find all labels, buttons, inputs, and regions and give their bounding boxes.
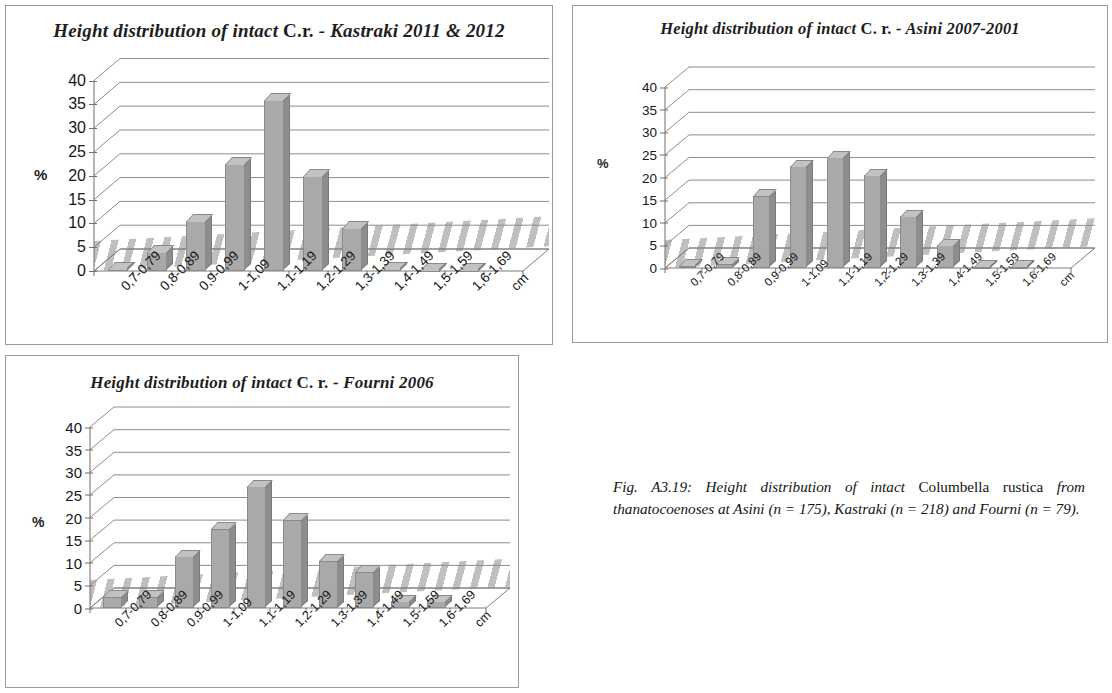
- bar-side-face: [953, 240, 960, 267]
- caption-lead: Fig. A3.19: Height distribution of intac…: [613, 478, 918, 495]
- x-axis-tick-label: 1,5-1,59: [983, 250, 1021, 288]
- x-axis-tick-label: 1,6-1,69: [1020, 250, 1058, 288]
- bar-side-face: [337, 555, 344, 607]
- y-axis-tick-label: 15: [54, 191, 86, 209]
- y-axis-tick-label: 0: [54, 262, 86, 280]
- gridline: [90, 407, 510, 427]
- y-axis-label: %: [34, 166, 47, 183]
- y-axis-tick-label: 10: [50, 554, 82, 571]
- gridline: [94, 106, 549, 128]
- gridline: [90, 452, 510, 472]
- y-tick-dash: [85, 563, 93, 564]
- y-tick-dash: [660, 245, 668, 246]
- y-axis-tick-label: 35: [625, 102, 657, 117]
- y-axis-tick-label: 25: [54, 143, 86, 161]
- plot-area-asini: 0510152025303540%0,7-0,790,8-0,890,9-0,9…: [573, 6, 1109, 344]
- y-tick-dash: [89, 81, 97, 82]
- chart-panel-asini: Height distribution of intact C. r. - As…: [572, 5, 1108, 343]
- bar-side-face: [205, 215, 212, 270]
- gridline: [665, 135, 1095, 155]
- bar: [679, 266, 696, 268]
- figure-page: Height distribution of intact C.r. - Kas…: [0, 0, 1112, 693]
- x-axis-unit-label: cm: [472, 608, 494, 630]
- y-tick-dash: [85, 427, 93, 428]
- bar-side-face: [361, 223, 368, 270]
- y-axis-tick-label: 10: [54, 214, 86, 232]
- y-tick-dash: [660, 268, 668, 269]
- bar: [1011, 267, 1028, 269]
- x-axis-unit-label: cm: [508, 270, 531, 293]
- bar: [827, 157, 844, 268]
- bar-side-face: [880, 170, 887, 267]
- y-axis-tick-label: 15: [625, 193, 657, 208]
- bar-side-face: [373, 567, 380, 607]
- y-axis-tick-label: 20: [50, 509, 82, 526]
- y-axis-tick-label: 25: [50, 486, 82, 503]
- y-axis-tick-label: 0: [50, 600, 82, 617]
- gridline: [94, 59, 549, 81]
- bar: [108, 269, 128, 271]
- bar: [103, 597, 122, 608]
- bar-side-face: [229, 524, 236, 607]
- y-tick-dash: [89, 200, 97, 201]
- y-tick-dash: [660, 200, 668, 201]
- x-axis-unit-label: cm: [1057, 269, 1076, 288]
- y-tick-dash: [89, 271, 97, 272]
- y-tick-dash: [89, 176, 97, 177]
- y-axis-tick-label: 20: [625, 170, 657, 185]
- y-axis-tick-label: 10: [625, 215, 657, 230]
- y-axis-label: %: [597, 156, 609, 171]
- y-axis-tick-label: 40: [625, 80, 657, 95]
- y-axis-tick-label: 15: [50, 532, 82, 549]
- y-axis-tick-label: 30: [625, 125, 657, 140]
- y-axis-tick-label: 35: [54, 95, 86, 113]
- gridline: [665, 112, 1095, 132]
- gridline: [665, 67, 1095, 87]
- bar-side-face: [244, 158, 251, 270]
- y-axis-tick-label: 40: [50, 419, 82, 436]
- y-axis-tick-label: 35: [50, 441, 82, 458]
- gridline: [90, 430, 510, 450]
- y-axis-tick-label: 20: [54, 167, 86, 185]
- y-axis-tick-label: 30: [54, 119, 86, 137]
- bar: [247, 486, 266, 608]
- y-tick-dash: [660, 132, 668, 133]
- y-tick-dash: [660, 178, 668, 179]
- gridline: [90, 475, 510, 495]
- y-tick-dash: [660, 87, 668, 88]
- gridline: [665, 90, 1095, 110]
- chart-panel-kastraki: Height distribution of intact C.r. - Kas…: [5, 5, 553, 345]
- plot-area-fourni: 0510152025303540%0,7-0,790,8-0,890,9-0,9…: [6, 356, 520, 689]
- x-axis-tick-label: 1,6-1,69: [436, 588, 478, 630]
- bar-side-face: [301, 515, 308, 607]
- bar-side-face: [193, 551, 200, 607]
- bar-side-face: [769, 191, 776, 267]
- y-tick-dash: [85, 450, 93, 451]
- gridline: [94, 82, 549, 104]
- y-tick-dash: [89, 247, 97, 248]
- chart-panel-fourni: Height distribution of intact C. r. - Fo…: [5, 355, 519, 688]
- bar-side-face: [322, 170, 329, 270]
- y-axis-tick-label: 5: [54, 238, 86, 256]
- bar: [264, 100, 284, 271]
- y-tick-dash: [85, 518, 93, 519]
- y-tick-dash: [85, 608, 93, 609]
- caption-species-name: Columbella rustica: [918, 478, 1043, 495]
- y-tick-dash: [660, 110, 668, 111]
- y-tick-dash: [660, 223, 668, 224]
- y-tick-dash: [85, 540, 93, 541]
- y-axis-tick-label: 30: [50, 464, 82, 481]
- y-axis-tick-label: 40: [54, 72, 86, 90]
- y-tick-dash: [89, 128, 97, 129]
- bar-side-face: [283, 94, 290, 270]
- y-axis-tick-label: 25: [625, 147, 657, 162]
- y-tick-dash: [89, 152, 97, 153]
- bar-side-face: [916, 211, 923, 267]
- bar: [974, 267, 991, 269]
- y-axis-tick-label: 5: [625, 238, 657, 253]
- y-axis-tick-label: 5: [50, 577, 82, 594]
- y-tick-dash: [660, 155, 668, 156]
- y-tick-dash: [85, 495, 93, 496]
- bar-side-face: [806, 161, 813, 267]
- y-tick-dash: [89, 104, 97, 105]
